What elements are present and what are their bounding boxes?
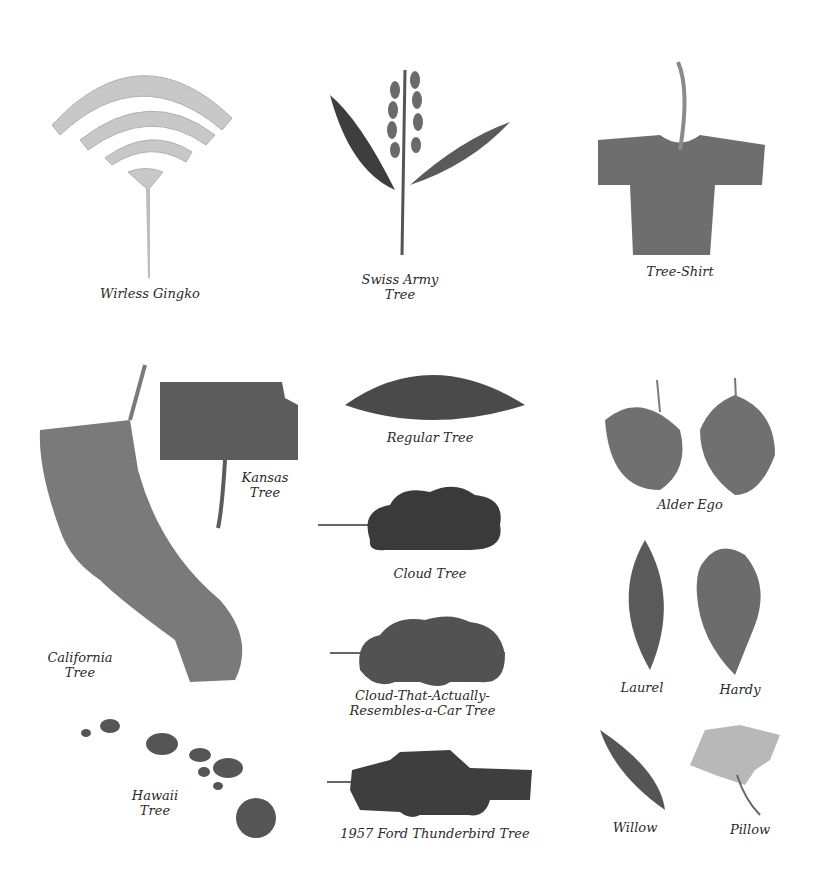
caption-swiss-army-tree: Swiss Army Tree [345, 272, 455, 302]
caption-line: Resembles-a-Car Tree [340, 703, 505, 718]
caption-cloud-car-tree: Cloud-That-Actually- Resembles-a-Car Tre… [340, 688, 505, 718]
caption-california-tree: California Tree [35, 650, 125, 680]
caption-line: 1957 Ford Thunderbird Tree [335, 826, 535, 841]
wireless-gingko-leaf [52, 76, 232, 278]
caption-line: Willow [605, 820, 665, 835]
caption-line: Laurel [612, 680, 672, 695]
caption-alder-ego: Alder Ego [650, 497, 730, 512]
caption-hawaii-tree: Hawaii Tree [115, 788, 195, 818]
caption-line: Tree [345, 287, 455, 302]
caption-line: Pillow [720, 822, 780, 837]
caption-hardy: Hardy [710, 682, 770, 697]
caption-line: Cloud-That-Actually- [340, 688, 505, 703]
alder-ego-leaves [605, 378, 775, 495]
leaf-collage: Wirless Gingko Swiss Army Tree Tree-Shir… [0, 0, 820, 873]
laurel-hardy-leaves [629, 540, 761, 675]
caption-line: Kansas [225, 470, 305, 485]
swiss-army-tree-leaves [330, 70, 510, 255]
caption-line: Tree [35, 665, 125, 680]
willow-pillow-leaves [600, 725, 780, 815]
cloud-tree-leaf [318, 487, 501, 551]
caption-line: Wirless Gingko [90, 286, 210, 301]
caption-line: California [35, 650, 125, 665]
caption-line: Hawaii [115, 788, 195, 803]
caption-line: Tree-Shirt [630, 264, 730, 279]
caption-tree-shirt: Tree-Shirt [630, 264, 730, 279]
regular-tree-leaf [345, 375, 525, 420]
caption-line: Tree [115, 803, 195, 818]
caption-cloud-tree: Cloud Tree [380, 566, 480, 581]
caption-line: Cloud Tree [380, 566, 480, 581]
caption-willow: Willow [605, 820, 665, 835]
caption-regular-tree: Regular Tree [375, 430, 485, 445]
cloud-car-tree-leaf [330, 616, 505, 686]
caption-line: Swiss Army [345, 272, 455, 287]
caption-wireless-gingko: Wirless Gingko [90, 286, 210, 301]
caption-line: Regular Tree [375, 430, 485, 445]
caption-line: Hardy [710, 682, 770, 697]
tree-shirt-leaf [598, 62, 765, 255]
kansas-tree-leaf [160, 382, 298, 528]
hawaii-tree-leaves [81, 719, 276, 838]
thunderbird-tree-leaf [327, 750, 532, 817]
caption-laurel: Laurel [612, 680, 672, 695]
caption-kansas-tree: Kansas Tree [225, 470, 305, 500]
caption-thunderbird-tree: 1957 Ford Thunderbird Tree [335, 826, 535, 841]
caption-pillow: Pillow [720, 822, 780, 837]
caption-line: Tree [225, 485, 305, 500]
caption-line: Alder Ego [650, 497, 730, 512]
